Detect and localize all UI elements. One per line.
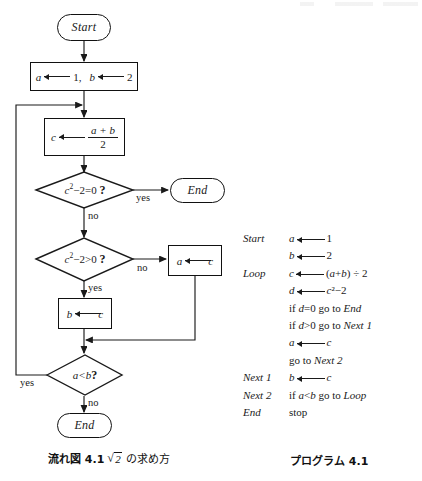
decision1-yes-label: yes (136, 192, 150, 203)
program-line: Endstop (243, 406, 422, 423)
flow-midpoint-expression: c a + b 2 (51, 125, 118, 150)
program-line: dc²−2 (243, 284, 422, 301)
page-header-artifact (300, 2, 418, 6)
decision3-yes-label: yes (20, 377, 34, 388)
program-line: Next 2if a<b go to Loop (243, 389, 422, 406)
program-line: if d>0 go to Next 1 (243, 319, 422, 336)
program-statement: go to Next 2 (289, 354, 342, 366)
program-assign-target: d (289, 284, 295, 296)
assign-a-expression: a c (177, 255, 213, 267)
assign-arrow-icon (185, 256, 205, 265)
program-assign-value: c (327, 336, 332, 348)
program-line-code: stop (289, 406, 422, 418)
init-separator: , (79, 71, 82, 83)
program-line-code: ac (289, 336, 422, 348)
d2-question: ? (99, 252, 105, 266)
assign-b-var: b (67, 308, 73, 320)
program-line-label: End (243, 406, 289, 418)
flow-start-terminator: Start (57, 14, 111, 41)
program-assign-value: c (327, 371, 332, 383)
program-caption: プログラム 4.1 (290, 452, 368, 468)
program-line-code: dc²−2 (289, 284, 422, 296)
mid-var-c: c (51, 131, 56, 143)
d3-question: ? (91, 368, 97, 382)
d2-rest: −2>0 (73, 253, 96, 265)
caption-left-suffix: の求め方 (126, 453, 170, 465)
decision1-label: c2−2=0 ? (40, 182, 130, 198)
flow-end-terminator-1: End (170, 178, 225, 203)
assign-arrow-icon (44, 72, 70, 81)
assign-arrow-icon (297, 235, 325, 244)
assign-b-expression: b c (67, 308, 103, 320)
flow-init-expression: a 1 , b 2 (36, 71, 133, 83)
decision2-no-label: no (137, 262, 148, 273)
flow-midpoint-box: c a + b 2 (44, 118, 125, 156)
fraction: a + b 2 (88, 125, 118, 150)
d3-expr: a<b (73, 369, 91, 381)
decision3-label: a<b? (50, 367, 120, 383)
assign-arrow-icon (296, 270, 324, 279)
flow-end-label-1: End (187, 183, 207, 198)
d1-question: ? (99, 183, 105, 197)
assign-arrow-icon (297, 339, 325, 348)
program-assign-value: 2 (327, 249, 333, 261)
decision1-no-label: no (88, 210, 99, 221)
program-assign-target: b (289, 371, 295, 383)
program-statement: stop (289, 406, 307, 418)
init-var-b: b (89, 71, 95, 83)
decision3-no-label: no (88, 397, 99, 408)
program-listing: Starta1b2Loopc(a+b) ÷ 2dc²−2if d=0 go to… (243, 232, 422, 423)
program-assign-target: a (289, 336, 295, 348)
flow-assign-a-box: a c (168, 245, 222, 276)
program-line-code: if d>0 go to Next 1 (289, 319, 422, 331)
program-line-code: if a<b go to Loop (289, 389, 422, 401)
fraction-denominator: 2 (88, 137, 118, 150)
init-var-a: a (36, 71, 42, 83)
assign-a-var: a (177, 255, 183, 267)
program-line: go to Next 2 (243, 354, 422, 371)
fraction-numerator: a + b (88, 125, 118, 137)
program-line-code: b2 (289, 249, 422, 261)
assign-arrow-icon (59, 133, 85, 142)
caption-radicand: 2 (114, 452, 122, 465)
assign-arrow-icon (98, 72, 124, 81)
program-line-label: Start (243, 232, 289, 244)
caption-right-prefix: プログラム (290, 455, 345, 468)
caption-left-prefix: 流れ図 (48, 453, 81, 466)
decision2-yes-label: yes (88, 282, 102, 293)
caption-right-number: 4.1 (349, 455, 369, 468)
program-statement: if a<b go to Loop (289, 389, 366, 401)
assign-arrow-icon (75, 309, 95, 318)
flow-start-label: Start (72, 20, 97, 35)
flow-init-box: a 1 , b 2 (30, 62, 138, 91)
assign-arrow-icon (297, 374, 325, 383)
program-line-code: c(a+b) ÷ 2 (289, 267, 422, 279)
flowchart-caption: 流れ図 4.1 2 の求め方 (48, 450, 170, 466)
program-assign-target: a (289, 232, 295, 244)
assign-arrow-icon (297, 252, 325, 261)
program-assign-target: b (289, 249, 295, 261)
program-statement: if d>0 go to Next 1 (289, 319, 372, 331)
init-val-2: 2 (127, 71, 133, 83)
flow-end-terminator-2: End (57, 413, 112, 438)
program-assign-value: (a+b) ÷ 2 (326, 267, 368, 279)
flow-end-label-2: End (74, 418, 94, 433)
program-line: Next 1bc (243, 371, 422, 388)
program-line-code: bc (289, 371, 422, 383)
program-line: b2 (243, 249, 422, 266)
flow-assign-b-box: b c (58, 298, 112, 329)
program-line-label: Loop (243, 267, 289, 279)
assign-arrow-icon (297, 287, 325, 296)
program-assign-value: c²−2 (327, 284, 347, 296)
program-line-label: Next 2 (243, 389, 289, 401)
program-line-code: go to Next 2 (289, 354, 422, 366)
program-assign-value: 1 (327, 232, 333, 244)
decision2-label: c2−2>0 ? (40, 251, 130, 267)
program-line-label: Next 1 (243, 371, 289, 383)
program-statement: if d=0 go to End (289, 302, 361, 314)
flowchart: Start a 1 , b 2 c a + b 2 (0, 0, 240, 481)
program-line: Starta1 (243, 232, 422, 249)
program-line: if d=0 go to End (243, 302, 422, 319)
program-line-code: a1 (289, 232, 422, 244)
d1-rest: −2=0 (73, 184, 96, 196)
